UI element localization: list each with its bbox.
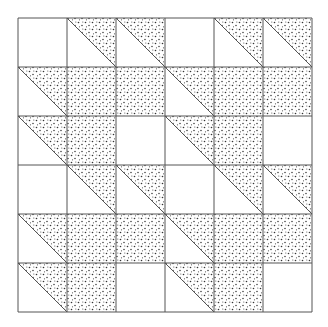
shaded-square	[214, 214, 263, 263]
shaded-square	[263, 67, 312, 116]
shaded-square	[116, 67, 165, 116]
shaded-square	[67, 214, 116, 263]
shaded-square	[214, 67, 263, 116]
shaded-square	[116, 214, 165, 263]
shaded-square	[67, 67, 116, 116]
shaded-square	[263, 214, 312, 263]
shaded-square	[214, 116, 263, 165]
shaded-square	[67, 116, 116, 165]
shaded-square	[214, 263, 263, 312]
quilt-pattern	[0, 0, 328, 327]
shaded-square	[67, 263, 116, 312]
